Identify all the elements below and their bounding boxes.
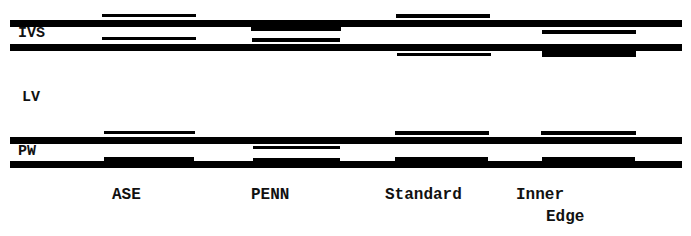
column-label-penn-line1: PENN [251, 184, 289, 206]
penn-ivs-top-band [251, 20, 341, 31]
inner-edge-ivs-bottom-band [542, 44, 636, 57]
inner-edge-pw-bottom-marker [542, 157, 635, 161]
penn-ivs-bottom-marker [252, 38, 340, 42]
ase-ivs-bottom-marker [102, 37, 196, 40]
standard-ivs-top-marker [396, 14, 490, 18]
standard-pw-bottom-band [395, 157, 488, 168]
column-label-inner-edge: Inner Edge [516, 184, 584, 228]
inner-edge-pw-top-marker [541, 131, 636, 135]
column-label-penn: PENN [251, 184, 289, 206]
pw-top-boundary-line [10, 137, 682, 144]
column-label-inner-edge-line2: Edge [516, 206, 584, 228]
row-label-lv: LV [22, 89, 40, 106]
ase-ivs-top-marker [102, 14, 196, 17]
column-label-ase-line1: ASE [112, 184, 141, 206]
penn-pw-bottom-band [253, 158, 340, 168]
measurement-convention-diagram: IVS LV PW ASE PENN Standard Inner Edge [0, 0, 691, 236]
column-label-standard: Standard [385, 184, 462, 206]
inner-edge-ivs-top-marker [542, 30, 636, 34]
column-label-standard-line1: Standard [385, 184, 462, 206]
row-label-pw: PW [18, 143, 36, 160]
column-label-inner-edge-line1: Inner [516, 184, 584, 206]
standard-ivs-bottom-marker [397, 53, 491, 56]
standard-pw-top-marker [395, 131, 489, 135]
penn-pw-top-marker [253, 146, 340, 149]
ase-pw-bottom-band [104, 157, 194, 168]
column-label-ase: ASE [112, 184, 141, 206]
ase-pw-top-marker [104, 131, 195, 134]
ivs-top-boundary-line [10, 20, 682, 27]
row-label-ivs: IVS [18, 25, 45, 42]
